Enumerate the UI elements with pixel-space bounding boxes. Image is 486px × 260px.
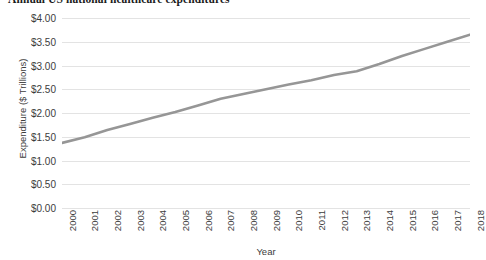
y-axis-tick-labels: $0.00$0.50$1.00$1.50$2.00$2.50$3.00$3.50…: [0, 0, 60, 260]
x-tick-label: 2000: [67, 210, 78, 231]
x-tick-label: 2001: [89, 210, 100, 231]
x-tick-label: 2002: [112, 210, 123, 231]
y-tick-label: $2.50: [31, 84, 56, 95]
y-tick-label: $1.50: [31, 131, 56, 142]
x-tick-label: 2004: [157, 210, 168, 231]
y-tick-label: $1.00: [31, 155, 56, 166]
x-tick-label: 2011: [316, 210, 327, 230]
y-tick-label: $2.00: [31, 108, 56, 119]
line-series-expenditure: [62, 18, 470, 208]
x-tick-label: 2012: [339, 210, 350, 231]
x-tick-label: 2006: [203, 210, 214, 231]
x-tick-label: 2003: [135, 210, 146, 231]
x-tick-label: 2007: [225, 210, 236, 231]
x-tick-label: 2013: [361, 210, 372, 231]
x-tick-label: 2017: [452, 210, 463, 231]
x-tick-label: 2018: [475, 210, 486, 231]
x-tick-label: 2015: [407, 210, 418, 231]
y-tick-label: $3.50: [31, 36, 56, 47]
y-tick-label: $0.50: [31, 179, 56, 190]
x-tick-label: 2014: [384, 210, 395, 231]
x-tick-label: 2009: [271, 210, 282, 231]
x-axis-tick-labels: 2000200120022003200420052006200720082009…: [62, 208, 470, 248]
y-tick-label: $0.00: [31, 203, 56, 214]
y-tick-label: $4.00: [31, 13, 56, 24]
y-tick-label: $3.00: [31, 60, 56, 71]
x-tick-label: 2010: [293, 210, 304, 231]
plot-area: [62, 18, 470, 208]
x-tick-label: 2005: [180, 210, 191, 231]
x-tick-label: 2008: [248, 210, 259, 231]
x-tick-label: 2016: [429, 210, 440, 231]
x-axis-title: Year: [62, 246, 470, 257]
